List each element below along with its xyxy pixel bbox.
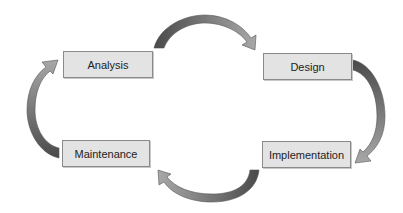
- stage-maintenance: Maintenance: [62, 140, 150, 167]
- stage-maintenance-label: Maintenance: [75, 148, 138, 160]
- stage-analysis: Analysis: [63, 51, 153, 78]
- arrow-analysis-to-design-icon: [154, 15, 256, 50]
- cycle-arrows: [0, 0, 403, 213]
- stage-design: Design: [263, 53, 352, 80]
- arrow-implementation-to-maintenance-icon: [158, 170, 259, 202]
- stage-analysis-label: Analysis: [88, 59, 129, 71]
- stage-implementation-label: Implementation: [269, 149, 344, 161]
- stage-design-label: Design: [290, 61, 324, 73]
- arrow-design-to-implementation-icon: [353, 60, 385, 163]
- cycle-diagram: Analysis Design Implementation Maintenan…: [0, 0, 403, 213]
- stage-implementation: Implementation: [262, 141, 351, 168]
- arrow-maintenance-to-analysis-icon: [27, 60, 59, 158]
